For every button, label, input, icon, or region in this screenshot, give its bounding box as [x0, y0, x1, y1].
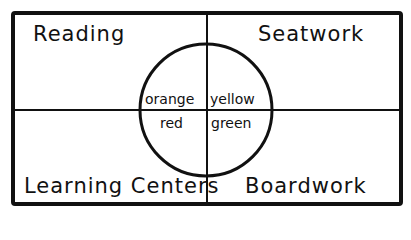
quadrant-label-boardwork: Boardwork	[245, 176, 367, 197]
quadrant-label-seatwork: Seatwork	[258, 24, 364, 45]
circle-label-yellow: yellow	[210, 92, 255, 106]
quadrant-label-learning-centers: Learning Centers	[24, 176, 219, 197]
quadrant-label-reading: Reading	[33, 24, 125, 45]
circle-label-red: red	[160, 116, 183, 130]
circle-label-orange: orange	[145, 92, 194, 106]
circle-label-green: green	[211, 116, 251, 130]
